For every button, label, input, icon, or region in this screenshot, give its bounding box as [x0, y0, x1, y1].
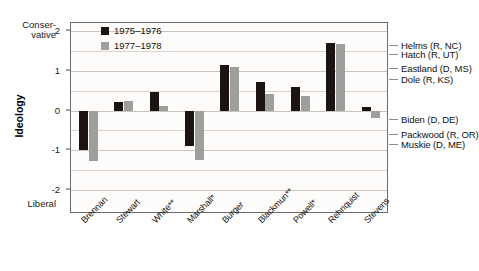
reference-marker-label: Eastland (D, MS) [401, 62, 472, 73]
y-axis-tick-label: 1 [34, 64, 60, 75]
bar-group [218, 23, 253, 212]
y-axis-bottom-pole-label: Liberal [8, 199, 56, 209]
bar [336, 44, 345, 111]
bar-group [183, 23, 218, 212]
bar [114, 102, 123, 111]
legend-label: 1977–1978 [114, 40, 162, 51]
bar-group [254, 23, 289, 212]
bar [159, 106, 168, 111]
reference-marker-tick [389, 119, 398, 120]
bar [256, 82, 265, 111]
bar [220, 65, 229, 111]
reference-marker-label: Muskie (D, ME) [401, 138, 465, 149]
bar [89, 111, 98, 162]
bar [371, 111, 380, 118]
bar-group [289, 23, 324, 212]
y-axis-tick-label: -1 [34, 144, 60, 155]
bar-group [360, 23, 388, 212]
y-axis-tick-label: 2 [34, 24, 60, 35]
legend-item: 1975–1976 [101, 24, 162, 37]
bar [301, 96, 310, 111]
reference-marker-tick [389, 144, 398, 145]
reference-marker-label: Biden (D, DE) [401, 114, 458, 125]
legend-item: 1977–1978 [101, 39, 162, 52]
reference-marker-label: Dole (R, KS) [401, 73, 453, 84]
bar [150, 92, 159, 111]
legend: 1975–1976 1977–1978 [101, 24, 162, 54]
y-axis-tick-label: -2 [34, 184, 60, 195]
bar [185, 111, 194, 146]
y-axis-title: Ideology [13, 81, 25, 151]
reference-marker-label: Hatch (R, UT) [401, 48, 458, 59]
reference-marker-tick [389, 45, 398, 46]
bar [265, 94, 274, 111]
bar [124, 101, 133, 111]
bar [79, 111, 88, 150]
reference-marker-tick [389, 54, 398, 55]
legend-swatch-icon [101, 27, 109, 35]
bar-group [324, 23, 359, 212]
reference-marker-tick [389, 79, 398, 80]
legend-label: 1975–1976 [114, 25, 162, 36]
bar [291, 87, 300, 110]
y-axis-tick-label: 0 [34, 104, 60, 115]
legend-swatch-icon [101, 42, 109, 50]
bar [362, 107, 371, 110]
reference-marker-tick [389, 134, 398, 135]
bar [230, 67, 239, 110]
bar [195, 111, 204, 161]
y-axis: Ideology Conser- vative Liberal 210-1-2 [0, 0, 70, 271]
reference-marker-tick [389, 68, 398, 69]
bar [326, 43, 335, 111]
